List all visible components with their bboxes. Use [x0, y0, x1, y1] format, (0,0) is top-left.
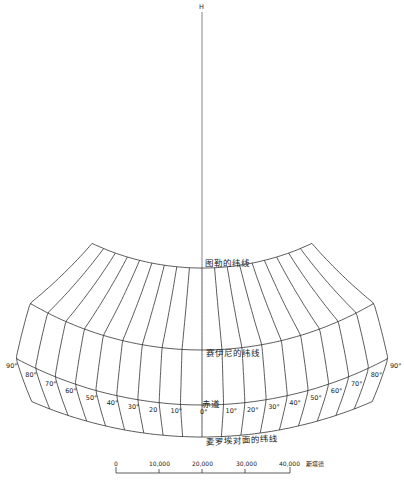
meridian-degree-label: 20	[149, 406, 157, 414]
scale-bar: 0 10,000 20,000 30,000 40,000 斯塔德	[114, 460, 324, 473]
scale-tick-10000: 10,000	[149, 460, 170, 467]
meridian-degree-label: 10°	[171, 407, 183, 415]
anti-meroe-parallel-label: 麦罗埃对面的纬线	[206, 433, 278, 447]
projection-diagram: H 90°80°70°60°50°40°30°2010°0°10°20°30°4…	[0, 0, 404, 488]
thule-parallel-label: 图勒的纬线	[205, 258, 250, 268]
scale-tick-20000: 20,000	[192, 460, 213, 467]
syene-parallel-label: 赛伊尼的纬线	[206, 348, 260, 358]
scale-tick-40000: 40,000	[279, 460, 300, 467]
meridian-degree-label: 50°	[86, 394, 98, 402]
meridian-degree-label: 30°	[268, 403, 280, 411]
meridian-degree-label: 90°	[390, 362, 402, 370]
meridian-degree-label: 0°	[200, 408, 207, 416]
pole-label: H	[199, 3, 204, 11]
meridian-degree-label: 80°	[25, 371, 37, 379]
meridian-degree-label: 40°	[289, 399, 301, 407]
meridian-degree-label: 10°	[226, 407, 238, 415]
equator-label: 赤道	[202, 399, 220, 409]
meridian-degree-label: 80°	[371, 371, 383, 379]
scale-tick-0: 0	[114, 460, 118, 467]
meridian-degree-label: 90°	[6, 362, 18, 370]
meridian-degree-label: 30°	[128, 403, 140, 411]
meridian-degree-label: 40°	[107, 399, 119, 407]
meridian-degree-label: 70°	[351, 380, 363, 388]
scale-tick-30000: 30,000	[236, 460, 257, 467]
meridian-degree-label: 70°	[45, 380, 57, 388]
meridian-degree-label: 60°	[331, 387, 343, 395]
meridian-degree-label: 60°	[65, 387, 77, 395]
meridian-degree-label: 50°	[310, 394, 322, 402]
scale-unit: 斯塔德	[306, 460, 324, 468]
meridian-degree-label: 20°	[247, 406, 259, 414]
